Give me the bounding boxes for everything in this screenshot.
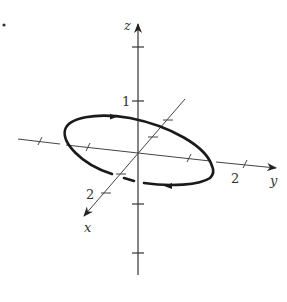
y-axis [18,137,276,168]
z-tick-label-1: 1 [122,94,130,109]
z-axis-label: z [123,18,131,33]
z-axis [132,24,144,275]
y-tick-label-2: 2 [231,171,239,186]
ellipse-curve [65,116,214,185]
y-tick [187,154,191,162]
y-tick [243,160,247,168]
bullet-dot [2,23,5,26]
x-axis-label: x [84,220,92,235]
x-tick-label-2: 2 [86,187,94,202]
y-axis-label: y [269,173,278,188]
3d-ellipse-diagram: z 1 y 2 x 2 [0,0,287,302]
